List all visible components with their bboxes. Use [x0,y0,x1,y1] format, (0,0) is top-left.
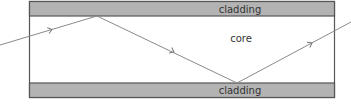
top-cladding-label: cladding [219,4,262,15]
bottom-cladding [30,83,335,98]
optical-fiber-diagram: cladding core cladding [0,0,351,104]
bottom-cladding-label: cladding [219,85,262,96]
top-cladding [30,2,335,17]
core-label: core [230,33,252,44]
